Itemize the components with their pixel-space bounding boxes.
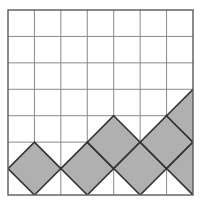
rotated-square bbox=[8, 142, 61, 195]
figure-container bbox=[0, 0, 202, 207]
grid-diagram bbox=[0, 0, 202, 207]
